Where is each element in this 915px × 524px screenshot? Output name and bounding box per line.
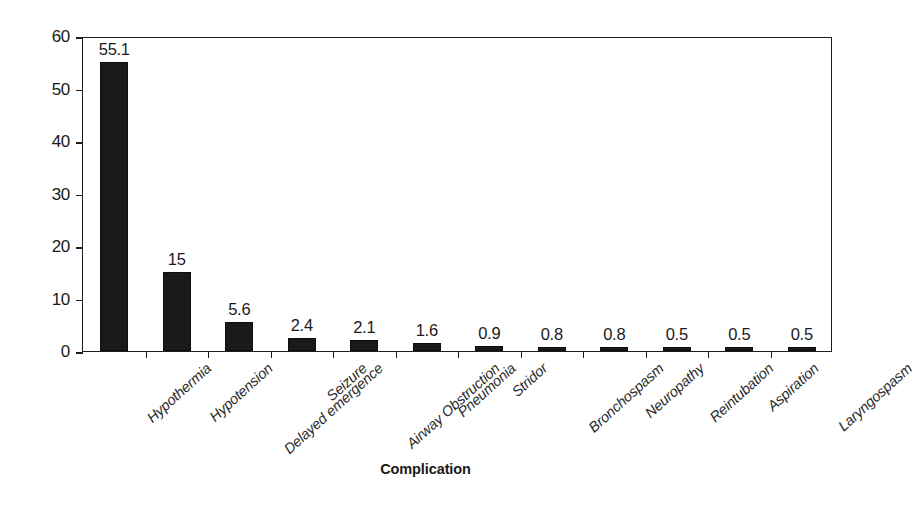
category-label: Airway Obstruction	[404, 360, 504, 452]
bar[interactable]	[225, 322, 253, 351]
x-axis-title: Complication	[0, 461, 851, 477]
x-tick-mark	[396, 351, 397, 358]
bar-value-label: 0.5	[728, 325, 750, 344]
y-tick-mark	[76, 195, 83, 197]
category-label: Reintubation	[706, 360, 777, 426]
x-tick-mark	[771, 351, 772, 358]
bar[interactable]	[413, 343, 441, 351]
y-tick-label: 30	[52, 185, 70, 205]
bar[interactable]	[725, 347, 753, 351]
bar[interactable]	[663, 347, 691, 351]
category-label: Stridor	[509, 360, 551, 401]
category-label: Hypothermia	[144, 360, 215, 427]
bar-value-label: 0.5	[666, 325, 688, 344]
bar[interactable]	[475, 346, 503, 351]
x-tick-mark	[521, 351, 522, 358]
y-tick-label: 10	[52, 290, 70, 310]
bar-value-label: 0.8	[541, 325, 563, 344]
y-tick-mark	[76, 90, 83, 92]
y-tick-label: 20	[52, 237, 70, 257]
bar-value-label: 55.1	[99, 40, 130, 59]
bar-slot: 5.6	[208, 38, 271, 351]
bar[interactable]	[163, 272, 191, 351]
plot-area: Percentage of patients 0102030405060 55.…	[82, 37, 832, 352]
bar[interactable]	[350, 340, 378, 351]
bar-slot: 15	[146, 38, 209, 351]
bar[interactable]	[288, 338, 316, 351]
bar-slot: 55.1	[83, 38, 146, 351]
y-tick-mark	[76, 37, 83, 39]
x-tick-mark	[583, 351, 584, 358]
x-tick-mark	[271, 351, 272, 358]
bar-slot: 0.8	[583, 38, 646, 351]
bar-value-label: 0.5	[791, 325, 813, 344]
x-tick-mark	[208, 351, 209, 358]
bar-slot: 0.5	[646, 38, 709, 351]
x-tick-mark	[458, 351, 459, 358]
y-tick-mark	[76, 142, 83, 144]
clipped-caption-remnant	[0, 512, 851, 524]
bar[interactable]	[538, 347, 566, 351]
category-label: Hypotension	[206, 360, 276, 425]
x-tick-mark	[146, 351, 147, 358]
x-tick-mark	[708, 351, 709, 358]
y-tick-label: 60	[52, 27, 70, 47]
bar-value-label: 5.6	[228, 300, 250, 319]
bar-value-label: 15	[168, 250, 186, 269]
y-tick-mark	[76, 247, 83, 249]
y-tick-mark	[76, 352, 83, 354]
bar-value-label: 0.8	[603, 325, 625, 344]
y-tick-label: 40	[52, 132, 70, 152]
bar-slot: 0.5	[708, 38, 771, 351]
bar-value-label: 1.6	[416, 321, 438, 340]
y-tick-label: 0	[61, 342, 70, 362]
bar[interactable]	[100, 62, 128, 351]
x-tick-mark	[646, 351, 647, 358]
bar-slot: 1.6	[396, 38, 459, 351]
category-label: Laryngospasm	[835, 360, 915, 435]
bar[interactable]	[788, 347, 816, 351]
bar-slot: 0.9	[458, 38, 521, 351]
x-tick-mark	[333, 351, 334, 358]
y-tick-label: 50	[52, 80, 70, 100]
bar[interactable]	[600, 347, 628, 351]
bar-slot: 2.4	[271, 38, 334, 351]
bar-value-label: 2.1	[353, 318, 375, 337]
category-label: Delayed emergence	[281, 360, 387, 458]
bar-value-label: 0.9	[478, 324, 500, 343]
y-tick-mark	[76, 300, 83, 302]
bar-slot: 0.5	[771, 38, 834, 351]
bar-slot: 2.1	[333, 38, 396, 351]
bar-slot: 0.8	[521, 38, 584, 351]
bar-value-label: 2.4	[291, 316, 313, 335]
